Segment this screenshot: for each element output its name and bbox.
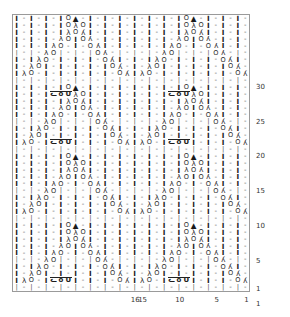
chart-cell[interactable]: - [168,167,175,174]
chart-cell[interactable]: Ӏ [131,270,138,277]
chart-cell[interactable]: Ӏ [220,132,227,139]
chart-cell[interactable]: Ӏ [28,222,35,229]
chart-cell[interactable]: - [153,36,160,43]
chart-cell[interactable]: Ӏ [146,105,153,112]
chart-cell[interactable]: - [242,84,249,91]
chart-cell[interactable]: Ӏ [175,56,182,63]
chart-cell[interactable]: - [50,160,57,167]
chart-cell[interactable]: λ [242,277,249,284]
chart-cell[interactable]: λ [220,256,227,263]
chart-cell[interactable]: O [28,70,35,77]
chart-cell[interactable]: Ӏ [161,105,168,112]
chart-cell[interactable]: O [146,277,153,284]
chart-cell[interactable]: - [79,270,86,277]
chart-cell[interactable]: - [79,215,86,222]
chart-cell[interactable]: - [109,84,116,91]
chart-cell[interactable]: Ӏ [13,270,20,277]
chart-cell[interactable]: | [87,50,94,57]
chart-cell[interactable]: - [153,229,160,236]
chart-cell[interactable]: Ӏ [43,63,50,70]
chart-cell[interactable]: | [205,77,212,84]
chart-cell[interactable]: λ [183,236,190,243]
chart-cell[interactable]: | [57,256,64,263]
chart-cell[interactable]: O [234,70,241,77]
chart-cell[interactable]: | [190,256,197,263]
chart-cell[interactable]: Ӏ [13,174,20,181]
chart-cell[interactable]: - [183,112,190,119]
chart-cell[interactable]: - [153,15,160,22]
chart-cell[interactable]: λ [183,29,190,36]
chart-cell[interactable]: Ӏ [161,70,168,77]
chart-cell[interactable]: O [205,181,212,188]
chart-cell[interactable]: - [168,56,175,63]
chart-cell[interactable]: O [183,22,190,29]
chart-cell[interactable]: - [168,229,175,236]
chart-cell[interactable]: Ӏ [72,174,79,181]
chart-cell[interactable]: O [146,70,153,77]
chart-cell[interactable]: | [43,146,50,153]
chart-cell[interactable]: Ӏ [190,105,197,112]
chart-cell[interactable]: Ӏ [220,84,227,91]
chart-cell[interactable]: - [168,125,175,132]
chart-cell[interactable]: - [94,222,101,229]
chart-cell[interactable]: Ӏ [190,36,197,43]
chart-cell[interactable]: Ӏ [87,15,94,22]
chart-cell[interactable]: O [205,43,212,50]
chart-cell[interactable]: - [20,187,27,194]
chart-cell[interactable]: - [35,250,42,257]
chart-cell[interactable]: | [57,215,64,222]
chart-cell[interactable]: | [13,146,20,153]
chart-cell[interactable]: Ӏ [131,84,138,91]
chart-cell[interactable]: O [87,112,94,119]
chart-cell[interactable]: O [35,270,42,277]
chart-cell[interactable]: Ӏ [43,29,50,36]
chart-cell[interactable]: Ӏ [175,63,182,70]
chart-cell[interactable]: - [79,256,86,263]
chart-cell[interactable]: | [146,50,153,57]
chart-cell[interactable]: - [20,56,27,63]
chart-cell[interactable]: - [50,201,57,208]
chart-cell[interactable]: | [57,77,64,84]
chart-cell[interactable]: Ӏ [43,105,50,112]
chart-cell[interactable]: | [72,256,79,263]
chart-cell[interactable]: - [124,284,131,291]
chart-cell[interactable]: | [234,215,241,222]
chart-cell[interactable]: Ӏ [57,236,64,243]
chart-cell[interactable]: Ӏ [116,22,123,29]
chart-cell[interactable]: - [153,22,160,29]
chart-cell[interactable]: - [212,36,219,43]
chart-cell[interactable]: Ӏ [175,263,182,270]
chart-cell[interactable]: Ӏ [190,277,197,284]
chart-cell[interactable]: - [153,215,160,222]
chart-cell[interactable]: - [65,118,72,125]
chart-cell[interactable]: Ӏ [13,222,20,229]
chart-cell[interactable]: - [197,132,204,139]
chart-cell[interactable]: - [65,50,72,57]
chart-cell[interactable]: Ӏ [190,56,197,63]
chart-cell[interactable]: Ӏ [87,132,94,139]
chart-cell[interactable]: O [197,174,204,181]
chart-cell[interactable]: - [79,139,86,146]
chart-cell[interactable]: Ӏ [43,98,50,105]
chart-cell[interactable]: Ӏ [161,98,168,105]
chart-cell[interactable]: - [50,77,57,84]
chart-cell[interactable]: O [197,91,204,98]
chart-cell[interactable]: - [94,63,101,70]
chart-cell[interactable]: Ӏ [220,270,227,277]
chart-cell[interactable]: Ӏ [72,263,79,270]
chart-cell[interactable]: Ӏ [161,160,168,167]
chart-cell[interactable]: | [43,77,50,84]
chart-cell[interactable]: O [168,256,175,263]
chart-cell[interactable]: - [50,284,57,291]
chart-cell[interactable]: Ӏ [146,160,153,167]
chart-cell[interactable]: | [116,187,123,194]
chart-cell[interactable]: O [220,194,227,201]
chart-cell[interactable]: O [72,29,79,36]
chart-cell[interactable]: λ [124,139,131,146]
chart-cell[interactable]: Ӏ [131,112,138,119]
chart-cell[interactable]: λ [50,43,57,50]
chart-cell[interactable]: | [57,118,64,125]
chart-cell[interactable]: Ӏ [234,250,241,257]
chart-cell[interactable]: O [65,174,72,181]
chart-cell[interactable]: - [168,84,175,91]
